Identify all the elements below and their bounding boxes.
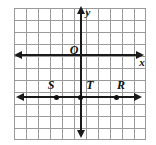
y-axis-top-arrowhead	[77, 6, 85, 14]
x-axis-left-arrowhead	[14, 51, 22, 59]
point-s	[54, 95, 59, 100]
x-axis-label: x	[139, 56, 145, 68]
horizontal-line-left-arrowhead	[16, 93, 24, 101]
x-axis-line	[22, 54, 136, 56]
point-t	[78, 95, 83, 100]
point-label-t: T	[86, 79, 93, 91]
point-r	[114, 95, 119, 100]
y-axis-bottom-arrowhead	[77, 130, 85, 138]
y-axis-label: y	[86, 6, 91, 18]
origin-label: O	[70, 44, 79, 56]
horizontal-line-right-arrowhead	[134, 93, 142, 101]
point-label-r: R	[117, 79, 125, 91]
point-label-s: S	[48, 79, 55, 91]
y-axis-line	[80, 14, 82, 130]
coordinate-plane-figure: x y O S T R	[0, 0, 156, 145]
